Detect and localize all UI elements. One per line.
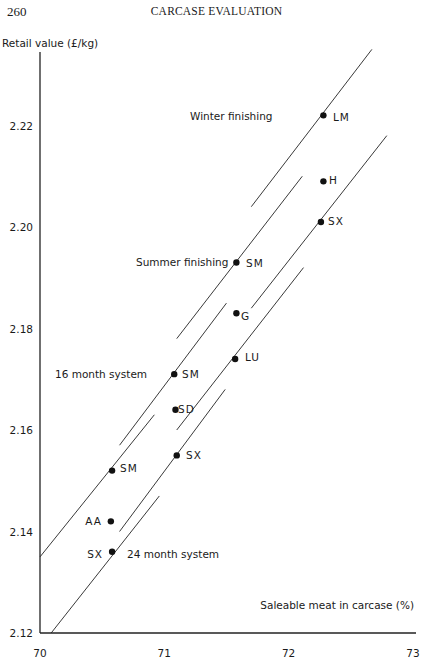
point-label: SM — [246, 257, 264, 269]
point-label: SM — [182, 368, 200, 380]
group-label: Winter finishing — [190, 110, 273, 122]
point-label: SM — [120, 462, 138, 474]
point-label: LU — [245, 351, 260, 363]
x-tick-label: 73 — [406, 647, 419, 659]
data-point — [318, 219, 324, 225]
x-tick-label: 70 — [33, 647, 46, 659]
point-label: H — [329, 174, 338, 186]
data-point — [174, 452, 180, 458]
point-label: SX — [186, 449, 202, 461]
data-point — [233, 259, 239, 265]
data-point — [320, 178, 326, 184]
trend-line — [40, 415, 154, 557]
trend-line — [251, 49, 372, 206]
data-point — [109, 549, 115, 555]
data-point — [233, 310, 239, 316]
y-tick-label: 2.20 — [10, 221, 33, 233]
data-point — [108, 518, 114, 524]
y-tick-label: 2.14 — [10, 526, 34, 538]
point-label: G — [241, 310, 250, 322]
point-label: SX — [328, 215, 344, 227]
y-tick-label: 2.12 — [10, 627, 33, 639]
scatter-chart: Retail value (£/kg) Saleable meat in car… — [0, 0, 423, 664]
group-label: 24 month system — [127, 548, 219, 560]
data-point — [109, 467, 115, 473]
y-tick-label: 2.16 — [10, 424, 34, 436]
data-point — [232, 356, 238, 362]
y-tick-label: 2.18 — [10, 323, 33, 335]
trend-line — [177, 268, 304, 430]
trend-line — [120, 389, 226, 531]
point-labels: LMHSXSMGLUSMSDSXSMAASX — [85, 111, 350, 560]
group-labels: Winter finishingSummer finishing16 month… — [55, 110, 273, 560]
trend-line — [51, 496, 159, 633]
data-points — [108, 112, 327, 555]
regression-lines — [40, 49, 387, 633]
x-tick-labels: 70717273 — [33, 647, 419, 659]
x-axis-label: Saleable meat in carcase (%) — [260, 599, 414, 611]
group-label: 16 month system — [55, 368, 147, 380]
data-point — [320, 112, 326, 118]
data-point — [171, 371, 177, 377]
point-label: SD — [178, 403, 195, 415]
y-tick-label: 2.22 — [10, 120, 33, 132]
group-label: Summer finishing — [136, 256, 228, 268]
point-label: LM — [333, 111, 350, 123]
x-tick-label: 72 — [282, 647, 295, 659]
point-label: SX — [87, 548, 103, 560]
y-axis-label: Retail value (£/kg) — [2, 37, 98, 49]
point-label: AA — [85, 515, 102, 527]
y-tick-labels: 2.122.142.162.182.202.22 — [10, 120, 34, 640]
x-tick-label: 71 — [158, 647, 171, 659]
